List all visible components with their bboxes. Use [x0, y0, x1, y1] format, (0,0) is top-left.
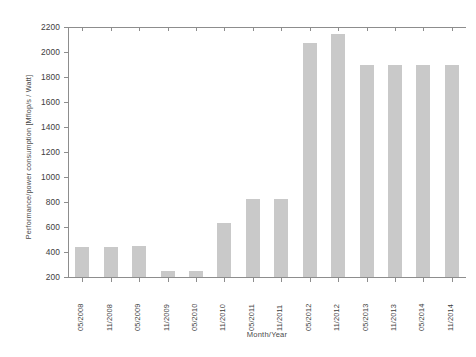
bar [161, 271, 175, 277]
y-axis-tick-label: 600 [20, 222, 60, 232]
y-axis-tick-label: 800 [20, 197, 60, 207]
y-axis-tick-right [466, 202, 470, 203]
y-axis-tick-label: 1000 [20, 172, 60, 182]
x-axis-tick-top [395, 27, 396, 31]
bar [416, 65, 430, 278]
x-axis-tick-label: 11/2009 [162, 285, 175, 331]
y-axis-tick-right [466, 27, 470, 28]
bar [303, 43, 317, 277]
y-axis-tick-label: 2000 [20, 47, 60, 57]
y-axis-tick-right [466, 52, 470, 53]
x-axis-tick-top [111, 27, 112, 31]
x-axis-tick-label: 05/2013 [361, 285, 374, 331]
plot-area: 2004006008001000120014001600180020002200… [68, 27, 466, 278]
x-axis-tick-top [224, 27, 225, 31]
bar [217, 223, 231, 277]
y-axis-tick-label: 2200 [20, 22, 60, 32]
y-axis-tick [64, 177, 68, 178]
x-axis-tick [338, 278, 339, 282]
y-axis-tick-right [466, 277, 470, 278]
x-axis-tick-label: 11/2008 [105, 285, 118, 331]
bar [104, 247, 118, 277]
y-axis-tick [64, 127, 68, 128]
y-axis-tick [64, 52, 68, 53]
x-axis-tick [452, 278, 453, 282]
x-axis-tick-label: 11/2013 [389, 285, 402, 331]
y-axis-tick [64, 27, 68, 28]
bar [360, 65, 374, 278]
y-axis-tick-right [466, 152, 470, 153]
x-axis-tick [196, 278, 197, 282]
x-axis-tick-label: 11/2011 [275, 285, 288, 331]
y-axis-tick [64, 77, 68, 78]
x-axis-tick-top [139, 27, 140, 31]
x-axis-tick-top [168, 27, 169, 31]
y-axis-tick-label: 1600 [20, 97, 60, 107]
x-axis-tick-top [253, 27, 254, 31]
y-axis-tick [64, 152, 68, 153]
x-axis-title: Month/Year [68, 330, 466, 339]
y-axis-tick-right [466, 127, 470, 128]
x-axis-tick [281, 278, 282, 282]
x-axis-tick-top [338, 27, 339, 31]
y-axis-tick [64, 102, 68, 103]
x-axis-tick-top [196, 27, 197, 31]
x-axis-tick-top [310, 27, 311, 31]
bar [246, 199, 260, 277]
x-axis-tick-label: 05/2008 [76, 285, 89, 331]
x-axis-tick [82, 278, 83, 282]
bar-chart-figure: Performance/power consumption [Mflop/s /… [0, 0, 476, 357]
bar [75, 247, 89, 277]
axis-line-bottom [68, 277, 466, 278]
y-axis-tick [64, 202, 68, 203]
x-axis-tick-label: 05/2011 [247, 285, 260, 331]
x-axis-tick-top [281, 27, 282, 31]
y-axis-tick-label: 1800 [20, 72, 60, 82]
x-axis-tick-top [423, 27, 424, 31]
x-axis-tick [367, 278, 368, 282]
x-axis-tick-label: 11/2012 [332, 285, 345, 331]
y-axis-tick [64, 277, 68, 278]
y-axis-tick-label: 1200 [20, 147, 60, 157]
y-axis-tick-label: 200 [20, 272, 60, 282]
x-axis-tick [139, 278, 140, 282]
x-axis-tick [395, 278, 396, 282]
x-axis-tick-label: 05/2012 [304, 285, 317, 331]
y-axis-tick [64, 227, 68, 228]
x-axis-tick-top [367, 27, 368, 31]
x-axis-tick-label: 05/2010 [190, 285, 203, 331]
y-axis-tick [64, 252, 68, 253]
x-axis-tick-top [452, 27, 453, 31]
x-axis-tick [111, 278, 112, 282]
bar [388, 65, 402, 278]
y-axis-tick-right [466, 102, 470, 103]
bar [189, 271, 203, 277]
x-axis-tick [253, 278, 254, 282]
y-axis-tick-label: 1400 [20, 122, 60, 132]
x-axis-tick-top [82, 27, 83, 31]
x-axis-tick [224, 278, 225, 282]
x-axis-tick-label: 11/2010 [218, 285, 231, 331]
x-axis-tick [423, 278, 424, 282]
bar [445, 65, 459, 278]
x-axis-tick [168, 278, 169, 282]
y-axis-tick-label: 400 [20, 247, 60, 257]
y-axis-tick-right [466, 77, 470, 78]
bar [132, 246, 146, 277]
y-axis-tick-right [466, 252, 470, 253]
x-axis-tick [310, 278, 311, 282]
x-axis-tick-label: 05/2014 [417, 285, 430, 331]
bar [331, 34, 345, 277]
x-axis-tick-label: 05/2009 [133, 285, 146, 331]
axis-line-left [68, 27, 69, 278]
y-axis-tick-right [466, 227, 470, 228]
bar [274, 199, 288, 277]
y-axis-tick-right [466, 177, 470, 178]
axis-line-top [68, 27, 466, 28]
x-axis-tick-label: 11/2014 [446, 285, 459, 331]
